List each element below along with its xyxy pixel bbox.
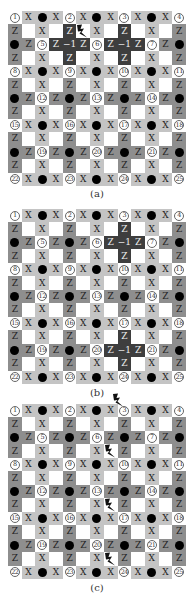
x-cell: X [145, 222, 159, 235]
highlighted-z-cell: Z [118, 249, 132, 262]
empty-cell [104, 330, 118, 343]
empty-cell [76, 471, 90, 484]
x-cell: X [145, 552, 159, 565]
panel-c: 1XX2XX3XX4ZXZXZXZZ5ZZ6ZZ7ZZXZXZXZ8XX9XX1… [8, 404, 186, 582]
z-cell: Z [49, 92, 63, 105]
site-label: 17 [119, 120, 129, 130]
x-cell: X [90, 132, 104, 145]
empty-cell [76, 330, 90, 343]
x-cell: X [145, 276, 159, 289]
x-cell: X [49, 119, 63, 132]
x-cell: X [104, 263, 118, 276]
dot-icon [10, 433, 19, 442]
z-cell: Z [49, 539, 63, 552]
z-cell: Z [76, 344, 90, 357]
site-label: 3 [119, 406, 129, 416]
empty-cell [131, 552, 145, 565]
site-label: 2 [65, 406, 75, 416]
x-cell: X [90, 471, 104, 484]
x-plaquette-center [35, 458, 49, 471]
x-cell: X [35, 24, 49, 37]
z-plaquette-center [118, 485, 132, 498]
x-cell: X [22, 209, 36, 222]
dot-icon [65, 238, 74, 247]
dot-icon [65, 541, 74, 550]
z-cell: Z [172, 552, 186, 565]
dot-icon [10, 487, 19, 496]
site-label: 16 [65, 513, 75, 523]
z-plaquette-center [118, 431, 132, 444]
dot-icon [38, 406, 47, 415]
z-cell: Z [172, 78, 186, 91]
empty-cell [159, 552, 173, 565]
site-number: 5 [35, 431, 49, 444]
highlighted-z-center: −1 [63, 38, 77, 51]
z-cell: Z [76, 539, 90, 552]
empty-cell [22, 159, 36, 172]
empty-cell [104, 249, 118, 262]
dot-icon [147, 265, 156, 274]
z-cell: Z [104, 92, 118, 105]
z-cell: Z [172, 444, 186, 457]
empty-cell [76, 417, 90, 430]
site-number: 16 [63, 317, 77, 330]
z-cell: Z [22, 485, 36, 498]
dot-icon [10, 346, 19, 355]
site-number: 18 [172, 119, 186, 132]
x-cell: X [90, 276, 104, 289]
empty-cell [104, 105, 118, 118]
dot-icon [175, 346, 184, 355]
site-number: 12 [35, 92, 49, 105]
x-cell: X [35, 471, 49, 484]
z-cell: Z [104, 485, 118, 498]
x-cell: X [76, 566, 90, 579]
z-cell: Z [118, 471, 132, 484]
x-cell: X [90, 303, 104, 316]
empty-cell [104, 159, 118, 172]
site-label: 8 [10, 265, 20, 275]
site-number: 9 [63, 65, 77, 78]
z-plaquette-center [118, 290, 132, 303]
x-cell: X [104, 11, 118, 24]
site-label: 14 [147, 291, 157, 301]
dot-icon [65, 487, 74, 496]
dot-icon [147, 514, 156, 523]
z-plaquette-center [63, 92, 77, 105]
x-cell: X [49, 173, 63, 186]
empty-cell [131, 303, 145, 316]
empty-cell [49, 159, 63, 172]
x-plaquette-center [145, 209, 159, 222]
x-cell: X [145, 78, 159, 91]
x-cell: X [131, 209, 145, 222]
z-cell: Z [8, 303, 22, 316]
x-cell: X [49, 458, 63, 471]
x-cell: X [90, 552, 104, 565]
site-number: 16 [63, 119, 77, 132]
z-cell: Z [8, 222, 22, 235]
z-cell: Z [76, 236, 90, 249]
z-cell: Z [159, 38, 173, 51]
z-cell: Z [76, 146, 90, 159]
site-label: 21 [147, 345, 157, 355]
empty-cell [131, 330, 145, 343]
x-cell: X [145, 159, 159, 172]
z-cell: Z [76, 485, 90, 498]
site-number: 9 [63, 263, 77, 276]
site-number: 13 [90, 485, 104, 498]
dot-icon [38, 265, 47, 274]
dot-icon [92, 406, 101, 415]
z-cell: Z [172, 132, 186, 145]
z-cell: Z [104, 146, 118, 159]
x-cell: X [90, 357, 104, 370]
z-cell: Z [49, 290, 63, 303]
x-plaquette-center [90, 404, 104, 417]
site-label: 23 [65, 174, 75, 184]
z-plaquette-center [8, 236, 22, 249]
x-cell: X [35, 159, 49, 172]
empty-cell [131, 24, 145, 37]
site-label: 10 [119, 265, 129, 275]
dot-icon [120, 541, 129, 550]
site-label: 19 [37, 345, 47, 355]
z-cell: Z [63, 159, 77, 172]
z-cell: Z [8, 444, 22, 457]
